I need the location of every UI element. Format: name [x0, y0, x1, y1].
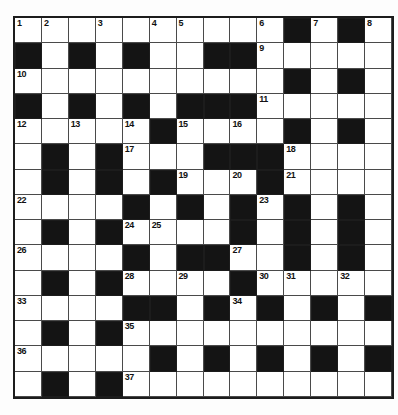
grid-cell-r1c10[interactable]: 6	[257, 18, 284, 43]
grid-cell-r11c11[interactable]: 31	[284, 271, 311, 296]
grid-cell-r5c7[interactable]: 15	[177, 119, 204, 144]
grid-cell-r7c11[interactable]: 21	[284, 170, 311, 195]
grid-cell-r2c6[interactable]	[150, 43, 177, 68]
grid-cell-r5c10[interactable]	[257, 119, 284, 144]
grid-cell-r3c6[interactable]	[150, 69, 177, 94]
grid-cell-r5c14[interactable]	[365, 119, 392, 144]
grid-cell-r11c10[interactable]: 30	[257, 271, 284, 296]
grid-cell-r7c8[interactable]	[204, 170, 231, 195]
grid-cell-r12c1[interactable]: 33	[15, 296, 42, 321]
grid-cell-r2c10[interactable]: 9	[257, 43, 284, 68]
grid-cell-r9c12[interactable]	[311, 220, 338, 245]
grid-cell-r14c7[interactable]	[177, 346, 204, 371]
grid-cell-r14c13[interactable]	[338, 346, 365, 371]
grid-cell-r9c3[interactable]	[69, 220, 96, 245]
grid-cell-r10c14[interactable]	[365, 245, 392, 270]
grid-cell-r14c9[interactable]	[230, 346, 257, 371]
grid-cell-r15c6[interactable]	[150, 372, 177, 397]
grid-cell-r4c4[interactable]	[96, 94, 123, 119]
grid-cell-r14c2[interactable]	[42, 346, 69, 371]
grid-cell-r6c3[interactable]	[69, 144, 96, 169]
grid-cell-r12c7[interactable]	[177, 296, 204, 321]
grid-cell-r10c9[interactable]: 27	[230, 245, 257, 270]
grid-cell-r4c10[interactable]: 11	[257, 94, 284, 119]
grid-cell-r3c5[interactable]	[123, 69, 150, 94]
grid-cell-r1c6[interactable]: 4	[150, 18, 177, 43]
grid-cell-r8c3[interactable]	[69, 195, 96, 220]
grid-cell-r14c1[interactable]: 36	[15, 346, 42, 371]
grid-cell-r10c2[interactable]	[42, 245, 69, 270]
grid-cell-r3c9[interactable]	[230, 69, 257, 94]
grid-cell-r9c14[interactable]	[365, 220, 392, 245]
grid-cell-r1c14[interactable]: 8	[365, 18, 392, 43]
grid-cell-r15c13[interactable]	[338, 372, 365, 397]
grid-cell-r5c1[interactable]: 12	[15, 119, 42, 144]
grid-cell-r6c12[interactable]	[311, 144, 338, 169]
grid-cell-r15c12[interactable]	[311, 372, 338, 397]
grid-cell-r10c1[interactable]: 26	[15, 245, 42, 270]
grid-cell-r8c4[interactable]	[96, 195, 123, 220]
grid-cell-r6c13[interactable]	[338, 144, 365, 169]
grid-cell-r5c2[interactable]	[42, 119, 69, 144]
grid-cell-r15c3[interactable]	[69, 372, 96, 397]
grid-cell-r11c5[interactable]: 28	[123, 271, 150, 296]
grid-cell-r15c1[interactable]	[15, 372, 42, 397]
grid-cell-r8c10[interactable]: 23	[257, 195, 284, 220]
grid-cell-r6c11[interactable]: 18	[284, 144, 311, 169]
grid-cell-r1c8[interactable]	[204, 18, 231, 43]
grid-cell-r15c10[interactable]	[257, 372, 284, 397]
grid-cell-r1c5[interactable]	[123, 18, 150, 43]
grid-cell-r7c5[interactable]	[123, 170, 150, 195]
grid-cell-r1c3[interactable]	[69, 18, 96, 43]
grid-cell-r10c6[interactable]	[150, 245, 177, 270]
grid-cell-r10c10[interactable]	[257, 245, 284, 270]
grid-cell-r3c14[interactable]	[365, 69, 392, 94]
grid-cell-r11c7[interactable]: 29	[177, 271, 204, 296]
grid-cell-r11c14[interactable]	[365, 271, 392, 296]
grid-cell-r9c10[interactable]	[257, 220, 284, 245]
grid-cell-r12c13[interactable]	[338, 296, 365, 321]
grid-cell-r1c9[interactable]	[230, 18, 257, 43]
grid-cell-r1c2[interactable]: 2	[42, 18, 69, 43]
grid-cell-r4c11[interactable]	[284, 94, 311, 119]
grid-cell-r14c5[interactable]	[123, 346, 150, 371]
grid-cell-r3c12[interactable]	[311, 69, 338, 94]
grid-cell-r6c1[interactable]	[15, 144, 42, 169]
grid-cell-r12c4[interactable]	[96, 296, 123, 321]
grid-cell-r4c14[interactable]	[365, 94, 392, 119]
grid-cell-r13c7[interactable]	[177, 321, 204, 346]
grid-cell-r10c12[interactable]	[311, 245, 338, 270]
grid-cell-r4c6[interactable]	[150, 94, 177, 119]
grid-cell-r10c4[interactable]	[96, 245, 123, 270]
grid-cell-r5c5[interactable]: 14	[123, 119, 150, 144]
grid-cell-r8c1[interactable]: 22	[15, 195, 42, 220]
grid-cell-r2c14[interactable]	[365, 43, 392, 68]
grid-cell-r1c7[interactable]: 5	[177, 18, 204, 43]
grid-cell-r3c3[interactable]	[69, 69, 96, 94]
grid-cell-r6c5[interactable]: 17	[123, 144, 150, 169]
grid-cell-r13c12[interactable]	[311, 321, 338, 346]
grid-cell-r8c2[interactable]	[42, 195, 69, 220]
grid-cell-r11c13[interactable]: 32	[338, 271, 365, 296]
grid-cell-r11c6[interactable]	[150, 271, 177, 296]
grid-cell-r7c12[interactable]	[311, 170, 338, 195]
grid-cell-r4c12[interactable]	[311, 94, 338, 119]
grid-cell-r13c3[interactable]	[69, 321, 96, 346]
grid-cell-r5c9[interactable]: 16	[230, 119, 257, 144]
grid-cell-r3c10[interactable]	[257, 69, 284, 94]
grid-cell-r7c7[interactable]: 19	[177, 170, 204, 195]
grid-cell-r13c14[interactable]	[365, 321, 392, 346]
grid-cell-r11c12[interactable]	[311, 271, 338, 296]
grid-cell-r8c12[interactable]	[311, 195, 338, 220]
grid-cell-r10c3[interactable]	[69, 245, 96, 270]
grid-cell-r15c11[interactable]	[284, 372, 311, 397]
grid-cell-r13c13[interactable]	[338, 321, 365, 346]
grid-cell-r7c9[interactable]: 20	[230, 170, 257, 195]
grid-cell-r6c14[interactable]	[365, 144, 392, 169]
grid-cell-r9c6[interactable]: 25	[150, 220, 177, 245]
grid-cell-r3c7[interactable]	[177, 69, 204, 94]
grid-cell-r14c4[interactable]	[96, 346, 123, 371]
grid-cell-r6c7[interactable]	[177, 144, 204, 169]
grid-cell-r7c1[interactable]	[15, 170, 42, 195]
grid-cell-r13c6[interactable]	[150, 321, 177, 346]
